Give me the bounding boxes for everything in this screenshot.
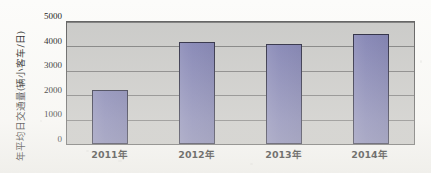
bar-2014年 (353, 34, 389, 144)
x-tick-label-2014年: 2014年 (326, 147, 413, 161)
y-tick-label-1000: 1000 (44, 109, 62, 119)
y-tick-label-3000: 3000 (44, 60, 62, 70)
y-tick-label-5000: 5000 (44, 11, 62, 21)
y-axis-title: 年平均日交通量(辆小客车/日) (13, 30, 29, 162)
y-tick-label-0: 0 (58, 134, 63, 144)
scan-speckle (250, 163, 253, 165)
bar-2011年 (92, 90, 128, 144)
bar-2012年 (179, 42, 215, 144)
x-tick-label-2011年: 2011年 (66, 147, 153, 161)
scan-speckle (420, 60, 422, 63)
x-axis-tick-labels: 2011年2012年2013年2014年 (66, 147, 415, 163)
bar-sheen (354, 35, 388, 143)
bar-2013年 (266, 44, 302, 144)
bar-sheen (180, 43, 214, 143)
bar-sheen (267, 45, 301, 143)
y-tick-label-2000: 2000 (44, 85, 62, 95)
x-tick-label-2013年: 2013年 (240, 147, 327, 161)
bar-sheen (93, 91, 127, 143)
bars-layer (67, 22, 414, 144)
x-tick-label-2012年: 2012年 (153, 147, 240, 161)
y-tick-label-4000: 4000 (44, 36, 62, 46)
y-axis-tick-labels: 5000 4000 3000 2000 1000 0 (30, 16, 64, 150)
bar-chart-figure: 年平均日交通量(辆小客车/日) 5000 4000 3000 2000 1000… (0, 0, 431, 173)
plot-area (66, 21, 415, 145)
